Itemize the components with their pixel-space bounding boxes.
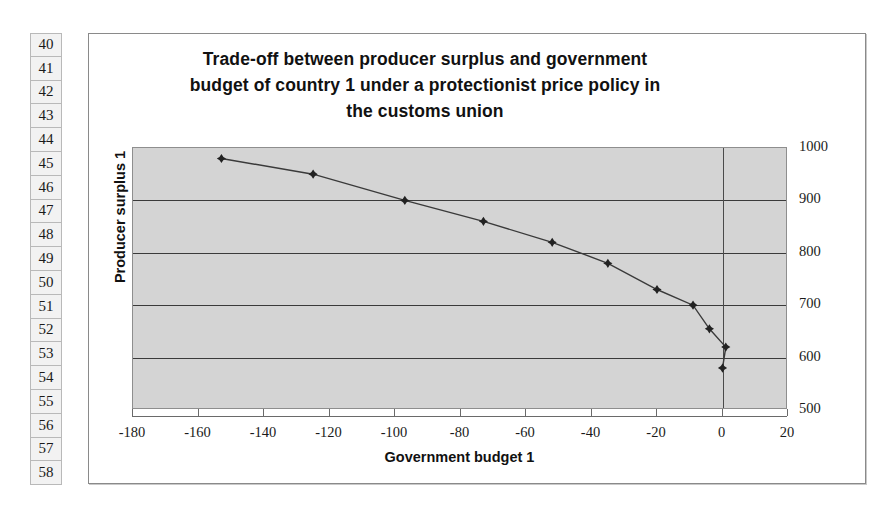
data-point-marker[interactable] [217, 154, 226, 163]
row-header-52[interactable]: 52 [30, 319, 62, 343]
row-header-41[interactable]: 41 [30, 57, 62, 81]
row-header-40[interactable]: 40 [30, 33, 62, 57]
row-header-54[interactable]: 54 [30, 366, 62, 390]
row-header-45[interactable]: 45 [30, 152, 62, 176]
data-point-marker[interactable] [688, 301, 697, 310]
x-tick-mark-0 [722, 409, 723, 416]
row-header-42[interactable]: 42 [30, 81, 62, 105]
screenshot-root: 40414243444546474849505152535455565758 T… [0, 0, 891, 521]
x-tick-mark-20 [787, 409, 788, 416]
data-point-marker[interactable] [400, 196, 409, 205]
data-point-marker[interactable] [479, 217, 488, 226]
row-header-56[interactable]: 56 [30, 414, 62, 438]
y-tick-label-600: 600 [799, 348, 821, 365]
x-tick-mark--20 [656, 409, 657, 416]
row-header-51[interactable]: 51 [30, 295, 62, 319]
x-tick-label--100: -100 [374, 424, 414, 441]
data-point-marker[interactable] [652, 285, 661, 294]
row-header-53[interactable]: 53 [30, 342, 62, 366]
x-tick-mark--60 [525, 409, 526, 416]
spreadsheet-row-header-gutter: 40414243444546474849505152535455565758 [30, 33, 62, 485]
data-point-marker[interactable] [718, 363, 727, 372]
x-tick-label--180: -180 [112, 424, 152, 441]
x-tick-mark--40 [591, 409, 592, 416]
x-tick-mark--140 [263, 409, 264, 416]
row-header-49[interactable]: 49 [30, 247, 62, 271]
data-point-marker[interactable] [309, 170, 318, 179]
chart-title-line-1: Trade-off between producer surplus and g… [125, 46, 725, 72]
x-axis-title: Government budget 1 [132, 449, 787, 465]
data-point-marker[interactable] [548, 238, 557, 247]
row-header-50[interactable]: 50 [30, 271, 62, 295]
plot-area[interactable] [132, 147, 787, 409]
chart-title-line-3: the customs union [125, 98, 725, 124]
x-tick-label--160: -160 [178, 424, 218, 441]
x-tick-mark--100 [394, 409, 395, 416]
data-point-marker[interactable] [603, 259, 612, 268]
y-tick-label-1000: 1000 [799, 138, 828, 155]
row-header-48[interactable]: 48 [30, 223, 62, 247]
chart-object-frame[interactable]: Trade-off between producer surplus and g… [88, 33, 866, 484]
row-header-43[interactable]: 43 [30, 104, 62, 128]
x-tick-mark--160 [198, 409, 199, 416]
row-header-58[interactable]: 58 [30, 461, 62, 485]
x-tick-label--140: -140 [243, 424, 283, 441]
row-header-55[interactable]: 55 [30, 390, 62, 414]
x-tick-label-0: 0 [702, 424, 742, 441]
y-tick-label-700: 700 [799, 295, 821, 312]
y-tick-label-900: 900 [799, 190, 821, 207]
x-tick-label--20: -20 [636, 424, 676, 441]
row-header-57[interactable]: 57 [30, 438, 62, 462]
x-tick-label--40: -40 [571, 424, 611, 441]
row-header-47[interactable]: 47 [30, 200, 62, 224]
y-tick-label-800: 800 [799, 243, 821, 260]
series-line [221, 159, 725, 369]
y-tick-label-500: 500 [799, 400, 821, 417]
x-tick-label--60: -60 [505, 424, 545, 441]
row-header-44[interactable]: 44 [30, 128, 62, 152]
data-series-producer-surplus[interactable] [133, 148, 788, 410]
y-axis-title: Producer surplus 1 [112, 142, 128, 292]
x-tick-mark--120 [329, 409, 330, 416]
x-tick-mark--180 [132, 409, 133, 416]
x-tick-mark--80 [460, 409, 461, 416]
x-axis-line [132, 416, 787, 417]
x-tick-label--80: -80 [440, 424, 480, 441]
row-header-46[interactable]: 46 [30, 176, 62, 200]
x-tick-label--120: -120 [309, 424, 349, 441]
chart-title: Trade-off between producer surplus and g… [125, 46, 725, 124]
chart-title-line-2: budget of country 1 under a protectionis… [125, 72, 725, 98]
x-tick-label-20: 20 [767, 424, 807, 441]
